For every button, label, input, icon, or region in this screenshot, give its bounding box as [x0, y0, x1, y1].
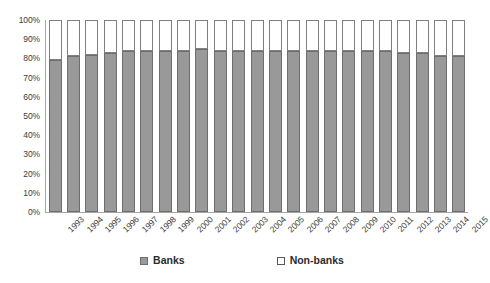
x-tick-label: 1999	[177, 215, 196, 234]
x-tick-label: 2000	[195, 215, 214, 234]
legend-label: Non-banks	[290, 255, 344, 266]
y-axis-tick-labels: 100%90%80%70%60%50%40%30%20%10%0%	[0, 20, 43, 212]
bar-segment-banks	[104, 53, 117, 212]
bar-segment-nonbanks	[251, 20, 264, 51]
legend-swatch-nonbanks-icon	[277, 257, 285, 265]
legend-item-banks[interactable]: Banks	[140, 255, 185, 266]
x-tick-label: 1994	[85, 215, 104, 234]
bar-segment-banks	[342, 51, 355, 212]
x-tick-label: 2005	[287, 215, 306, 234]
x-tick-label: 1993	[67, 215, 86, 234]
bar-segment-nonbanks	[67, 20, 80, 56]
bar-segment-banks	[452, 56, 465, 212]
x-tick-label: 2008	[342, 215, 361, 234]
bar-column	[324, 20, 337, 212]
x-tick-label: 2009	[360, 215, 379, 234]
bar-column	[67, 20, 80, 212]
y-tick-label: 10%	[23, 188, 40, 197]
bar-segment-nonbanks	[306, 20, 319, 51]
bar-series-group	[46, 20, 468, 212]
bar-column	[159, 20, 172, 212]
bar-segment-nonbanks	[416, 20, 429, 53]
bar-segment-nonbanks	[49, 20, 62, 60]
bar-segment-nonbanks	[397, 20, 410, 53]
bar-segment-banks	[85, 55, 98, 212]
bar-segment-banks	[140, 51, 153, 212]
legend-item-non-banks[interactable]: Non-banks	[277, 255, 344, 266]
bar-column	[416, 20, 429, 212]
bar-segment-banks	[232, 51, 245, 212]
plot-area	[46, 20, 468, 212]
x-tick-label: 2015	[470, 215, 489, 234]
bar-segment-banks	[159, 51, 172, 212]
x-tick-label: 1997	[140, 215, 159, 234]
x-tick-label: 2002	[232, 215, 251, 234]
x-tick-label: 2006	[305, 215, 324, 234]
x-tick-label: 1995	[103, 215, 122, 234]
bar-segment-banks	[306, 51, 319, 212]
bar-segment-nonbanks	[214, 20, 227, 51]
bar-column	[195, 20, 208, 212]
bar-column	[397, 20, 410, 212]
bar-segment-banks	[434, 56, 447, 212]
bar-segment-nonbanks	[104, 20, 117, 53]
bar-segment-banks	[122, 51, 135, 212]
bar-segment-banks	[251, 51, 264, 212]
bar-segment-banks	[361, 51, 374, 212]
x-tick-label: 1998	[158, 215, 177, 234]
bar-column	[306, 20, 319, 212]
bar-column	[232, 20, 245, 212]
legend-swatch-banks-icon	[140, 257, 148, 265]
bar-column	[379, 20, 392, 212]
bar-segment-banks	[195, 49, 208, 212]
bar-segment-nonbanks	[361, 20, 374, 51]
bar-segment-nonbanks	[195, 20, 208, 49]
y-tick-label: 30%	[23, 150, 40, 159]
x-tick-label: 2012	[415, 215, 434, 234]
bar-segment-banks	[287, 51, 300, 212]
y-tick-label: 50%	[23, 112, 40, 121]
bar-segment-nonbanks	[140, 20, 153, 51]
legend-label: Banks	[153, 255, 185, 266]
bar-segment-nonbanks	[452, 20, 465, 56]
bar-column	[85, 20, 98, 212]
bar-column	[269, 20, 282, 212]
y-tick-label: 0%	[28, 208, 40, 217]
bar-segment-nonbanks	[434, 20, 447, 56]
bar-segment-banks	[416, 53, 429, 212]
x-tick-label: 1996	[122, 215, 141, 234]
bar-segment-nonbanks	[232, 20, 245, 51]
x-tick-label: 2003	[250, 215, 269, 234]
y-tick-label: 90%	[23, 35, 40, 44]
x-tick-label: 2010	[379, 215, 398, 234]
bar-segment-nonbanks	[159, 20, 172, 51]
bar-segment-nonbanks	[122, 20, 135, 51]
bar-segment-nonbanks	[287, 20, 300, 51]
bar-segment-banks	[324, 51, 337, 212]
bar-segment-nonbanks	[324, 20, 337, 51]
bar-segment-nonbanks	[379, 20, 392, 51]
chart-legend: BanksNon-banks	[0, 255, 484, 266]
y-tick-label: 80%	[23, 54, 40, 63]
bar-segment-banks	[269, 51, 282, 212]
y-tick-label: 40%	[23, 131, 40, 140]
x-tick-label: 2001	[213, 215, 232, 234]
bar-segment-banks	[67, 56, 80, 212]
bar-column	[122, 20, 135, 212]
bar-column	[342, 20, 355, 212]
bar-column	[177, 20, 190, 212]
bar-column	[104, 20, 117, 212]
bar-segment-nonbanks	[269, 20, 282, 51]
y-tick-label: 20%	[23, 169, 40, 178]
bar-segment-banks	[379, 51, 392, 212]
x-tick-label: 2007	[323, 215, 342, 234]
bar-column	[287, 20, 300, 212]
x-axis-line	[45, 212, 468, 213]
bar-segment-banks	[397, 53, 410, 212]
bar-segment-nonbanks	[342, 20, 355, 51]
x-tick-label: 2013	[434, 215, 453, 234]
y-tick-label: 60%	[23, 92, 40, 101]
bar-column	[361, 20, 374, 212]
bar-segment-banks	[49, 60, 62, 212]
